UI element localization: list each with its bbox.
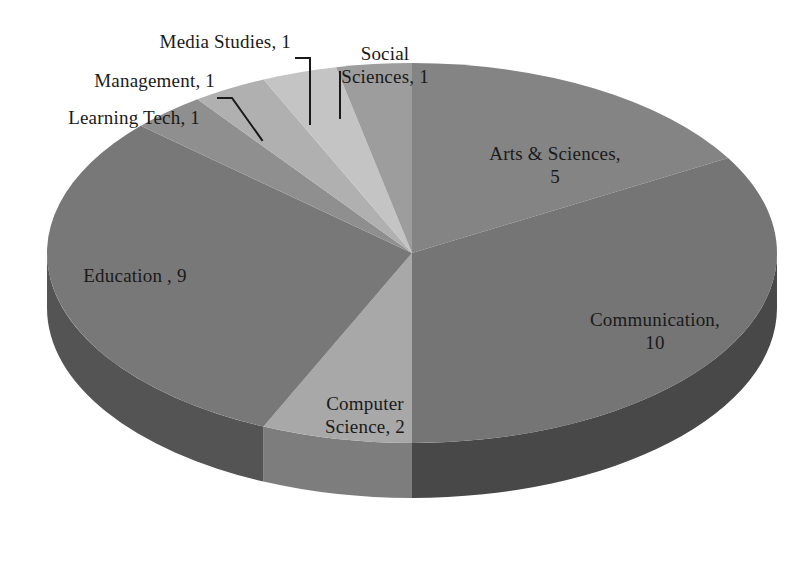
pie-chart: Arts & Sciences, 5 Communication, 10 Com… xyxy=(0,0,806,577)
slice-label-arts-sciences: Arts & Sciences, 5 xyxy=(455,142,655,188)
slice-label-social-sciences: Social Sciences, 1 xyxy=(320,42,450,88)
slice-label-communication: Communication, 10 xyxy=(545,308,765,354)
slice-label-education: Education , 9 xyxy=(40,264,230,287)
slice-label-computer-science: Computer Science, 2 xyxy=(290,392,440,438)
slice-label-media-studies: Media Studies, 1 xyxy=(106,30,291,53)
slice-label-management: Management, 1 xyxy=(30,69,215,92)
slice-label-learning-tech: Learning Tech, 1 xyxy=(10,106,200,129)
